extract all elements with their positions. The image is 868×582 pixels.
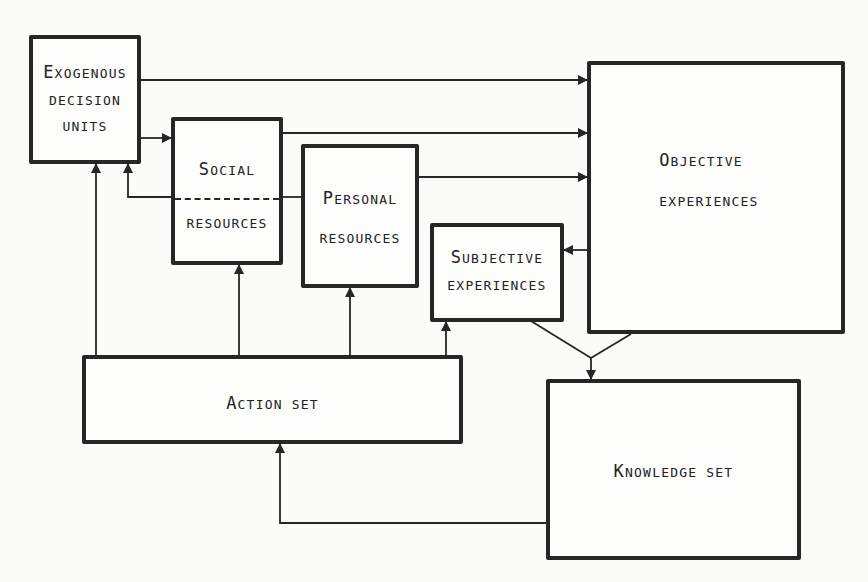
node-label: OBJECTIVE	[561, 152, 841, 169]
node-objective-experiences: OBJECTIVE EXPERIENCES	[587, 61, 845, 334]
node-label: EXPERIENCES	[434, 279, 560, 292]
node-label: UNITS	[33, 120, 137, 133]
node-label: EXPERIENCES	[577, 195, 841, 208]
edge-social-exogenous	[128, 164, 172, 197]
node-label: ACTION SET	[86, 395, 459, 412]
node-label: RESOURCES	[175, 217, 279, 230]
edge-knowledge-action	[280, 444, 547, 523]
edge-objective-knowledge	[591, 334, 631, 379]
node-subjective-experiences: SUBJECTIVE EXPERIENCES	[430, 223, 564, 322]
node-label: RESOURCES	[305, 232, 415, 245]
node-label: SOCIAL	[175, 161, 279, 178]
node-social-resources: SOCIAL RESOURCES	[171, 117, 283, 265]
node-knowledge-set: KNOWLEDGE SET	[546, 379, 801, 560]
node-personal-resources: PERSONAL RESOURCES	[301, 144, 419, 288]
node-exogenous-decision-units: EXOGENOUS DECISION UNITS	[29, 35, 141, 164]
node-label: PERSONAL	[305, 190, 415, 207]
node-label: SUBJECTIVE	[434, 249, 560, 266]
node-action-set: ACTION SET	[82, 355, 463, 444]
node-label: KNOWLEDGE SET	[550, 463, 797, 480]
edge-subjective-knowledge	[531, 321, 591, 358]
node-label: EXOGENOUS	[33, 64, 137, 81]
dashed-divider	[175, 198, 279, 200]
node-label: DECISION	[33, 94, 137, 107]
